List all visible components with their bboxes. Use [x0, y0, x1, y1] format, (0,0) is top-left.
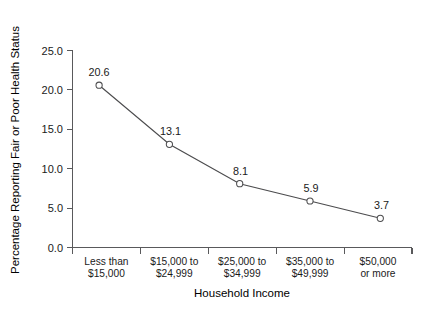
data-point-marker-0[interactable]: [96, 82, 102, 88]
y-tick-label-25: 25.0: [42, 45, 63, 57]
chart-figure: 0.0 5.0 10.0 15.0 20.0 25.0 20.6 13.1 8.…: [0, 0, 433, 311]
data-point-marker-3[interactable]: [307, 198, 313, 204]
x-category-label-2-line1: $25,000 to: [218, 256, 266, 267]
data-label-1: 13.1: [160, 125, 181, 137]
data-point-marker-2[interactable]: [237, 181, 243, 187]
y-tick-label-15: 15.0: [42, 123, 63, 135]
y-tick-label-5: 5.0: [48, 202, 63, 214]
data-point-marker-4[interactable]: [377, 215, 383, 221]
x-category-label-1-line1: $15,000 to: [150, 256, 198, 267]
line-chart: 0.0 5.0 10.0 15.0 20.0 25.0 20.6 13.1 8.…: [0, 0, 433, 311]
data-label-4: 3.7: [374, 199, 389, 211]
y-tick-label-0: 0.0: [48, 242, 63, 254]
data-label-0: 20.6: [89, 66, 110, 78]
x-axis-title: Household Income: [194, 287, 290, 299]
x-category-label-4-line1: $50,000: [360, 256, 397, 267]
y-tick-label-10: 10.0: [42, 163, 63, 175]
y-axis-title: Percentage Reporting Fair or Poor Health…: [9, 26, 21, 274]
data-label-3: 5.9: [303, 182, 318, 194]
x-category-label-2-line2: $34,999: [224, 268, 261, 279]
x-category-label-1-line2: $24,999: [156, 268, 193, 279]
data-label-2: 8.1: [233, 165, 248, 177]
x-category-label-0-line1: Less than: [84, 256, 128, 267]
x-category-label-3-line1: $35,000 to: [286, 256, 334, 267]
y-tick-label-20: 20.0: [42, 84, 63, 96]
x-category-label-4-line2: or more: [360, 268, 395, 279]
data-point-marker-1[interactable]: [166, 141, 172, 147]
x-category-label-3-line2: $49,999: [292, 268, 329, 279]
x-category-label-0-line2: $15,000: [88, 268, 125, 279]
